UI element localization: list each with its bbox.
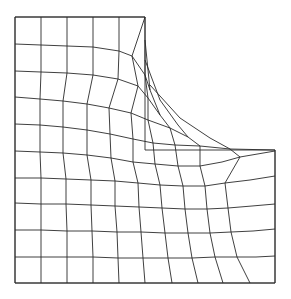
mesh-column-line (40, 17, 41, 283)
mesh-canvas (0, 0, 291, 299)
mesh-figure (0, 0, 291, 299)
mesh-row-line (15, 229, 275, 233)
mesh-column-line (109, 17, 119, 283)
mesh-column-line (87, 17, 93, 283)
mesh-row-line (15, 256, 275, 258)
mesh-row-line (15, 71, 160, 115)
mesh-row-line (15, 176, 275, 186)
mesh-column-line (63, 17, 67, 283)
mesh-column-line (145, 40, 198, 283)
mesh-row-line (15, 203, 275, 209)
mesh-column-line (150, 85, 250, 283)
